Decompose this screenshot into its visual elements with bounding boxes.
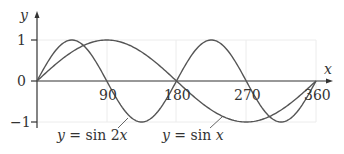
x-tick-90: 90 [99, 87, 117, 103]
y-axis-arrow-icon [35, 11, 40, 18]
x-tick-360: 360 [304, 87, 331, 103]
x-axis-arrow-icon [326, 79, 333, 84]
x-axis-label: x [324, 61, 332, 77]
sinx-label: y = sin x [161, 127, 224, 143]
y-tick-neg1: −1 [10, 114, 31, 130]
sin2x-label: y = sin 2x [56, 127, 128, 143]
x-tick-180: 180 [164, 87, 191, 103]
sine-graph: y x 1 0 −1 90 180 270 360 y = sin 2x y =… [0, 0, 344, 154]
y-tick-0: 0 [17, 73, 26, 89]
x-tick-270: 270 [234, 87, 261, 103]
y-tick-1: 1 [17, 32, 26, 48]
y-axis-label: y [19, 7, 29, 23]
axes [31, 11, 333, 128]
